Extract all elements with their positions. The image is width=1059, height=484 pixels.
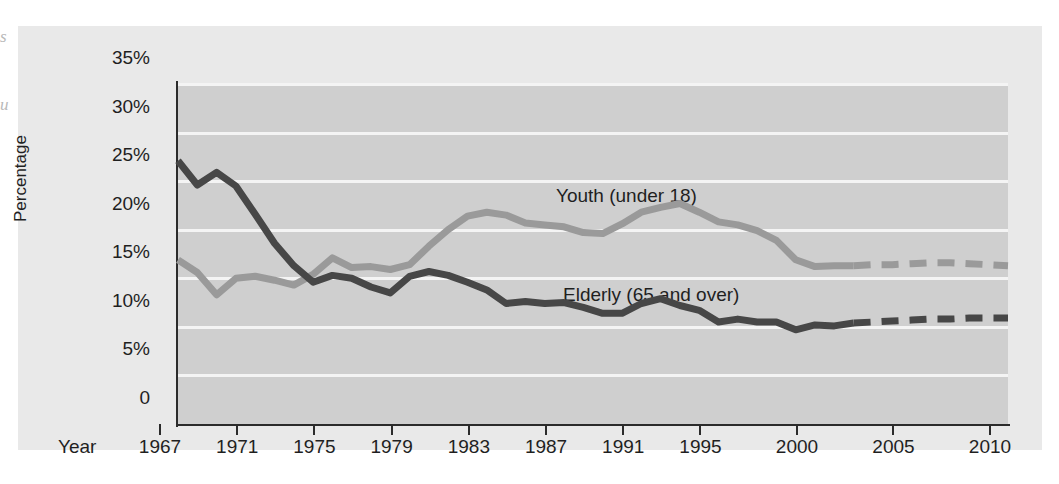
series-line-youth-projection bbox=[854, 263, 1008, 266]
series-line-elderly bbox=[178, 161, 854, 330]
series-lines bbox=[18, 26, 1059, 484]
series-line-elderly-projection bbox=[854, 318, 1008, 323]
chart-figure: s u Percentage Year 35%30%25%20%15%10%5%… bbox=[0, 0, 1059, 484]
chart-panel: Percentage Year 35%30%25%20%15%10%5%0 19… bbox=[18, 26, 1042, 450]
page-margin-glyph-top: s bbox=[0, 28, 7, 45]
page-margin-glyph-bottom: u bbox=[0, 96, 9, 113]
